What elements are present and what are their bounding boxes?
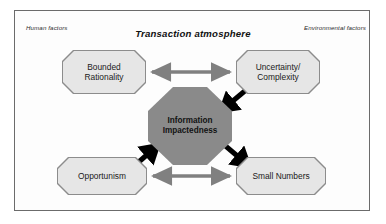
node-small-numbers-line1: Small Numbers (252, 171, 309, 181)
node-bounded-rationality-text: Bounded Rationality (84, 62, 123, 83)
node-bounded-rationality-line2: Rationality (84, 72, 123, 82)
node-uncertainty-complexity-line1: Uncertainty/ (256, 62, 301, 72)
node-information-impactedness-text: Information Impactedness (163, 116, 218, 137)
node-uncertainty-complexity-text: Uncertainty/ Complexity (256, 62, 301, 83)
diagram-title: Transaction atmosphere (0, 28, 386, 39)
node-information-impactedness-line2: Impactedness (163, 126, 218, 136)
transaction-atmosphere-diagram: Human factors Environmental factors Tran… (0, 0, 386, 224)
node-small-numbers[interactable]: Small Numbers (237, 158, 325, 194)
node-uncertainty-complexity-line2: Complexity (256, 72, 301, 82)
node-opportunism-line1: Opportunism (78, 171, 126, 181)
node-information-impactedness-line1: Information (163, 116, 218, 126)
node-bounded-rationality-line1: Bounded (84, 62, 123, 72)
node-uncertainty-complexity[interactable]: Uncertainty/ Complexity (237, 51, 319, 93)
node-bounded-rationality[interactable]: Bounded Rationality (63, 51, 145, 93)
node-opportunism[interactable]: Opportunism (58, 158, 146, 194)
